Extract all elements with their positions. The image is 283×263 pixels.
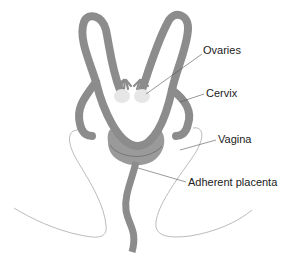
label-cervix: Cervix bbox=[206, 88, 237, 99]
label-ovaries: Ovaries bbox=[203, 45, 241, 56]
placenta-leader bbox=[138, 168, 186, 182]
left-cervix bbox=[79, 82, 96, 136]
left-body-outline bbox=[14, 130, 106, 237]
anatomy-diagram bbox=[0, 0, 283, 263]
left-ovary bbox=[114, 89, 130, 103]
right-ovary bbox=[134, 89, 150, 103]
umbilical-cord bbox=[126, 162, 136, 252]
left-uterine-horn bbox=[82, 16, 138, 146]
label-adherent-placenta: Adherent placenta bbox=[188, 177, 277, 188]
label-vagina: Vagina bbox=[218, 134, 251, 145]
right-cervix bbox=[172, 90, 189, 136]
right-uterine-horn bbox=[138, 15, 188, 146]
